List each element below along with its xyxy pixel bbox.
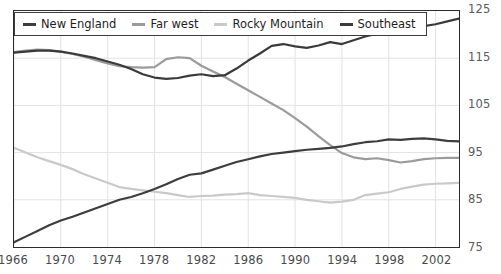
x-tick-label: 1998 (367, 253, 411, 267)
x-tick-label: 1986 (226, 253, 270, 267)
x-tick-label: 1990 (273, 253, 317, 267)
legend-item-rocky-mountain[interactable]: Rocky Mountain (214, 17, 323, 31)
legend-swatch-southeast (340, 23, 353, 26)
y-tick-label: 125 (468, 2, 491, 16)
y-tick-label: 115 (468, 50, 491, 64)
x-tick-label: 1978 (132, 253, 176, 267)
legend-label-rocky-mountain: Rocky Mountain (232, 17, 323, 31)
y-tick-label: 105 (468, 97, 491, 111)
y-tick-label: 95 (468, 145, 483, 159)
line-chart: New England Far west Rocky Mountain Sout… (0, 0, 501, 274)
plot-area (13, 10, 460, 248)
legend-label-new-england: New England (41, 17, 116, 31)
series-line (14, 50, 459, 163)
y-tick-label: 75 (468, 240, 483, 254)
x-tick-label: 1970 (38, 253, 82, 267)
legend-label-southeast: Southeast (358, 17, 416, 31)
y-tick-label: 85 (468, 192, 483, 206)
legend-swatch-rocky-mountain (214, 23, 227, 26)
x-tick-label: 1982 (179, 253, 223, 267)
chart-legend: New England Far west Rocky Mountain Sout… (14, 12, 427, 36)
legend-item-new-england[interactable]: New England (23, 17, 116, 31)
legend-swatch-far-west (132, 23, 145, 26)
series-lines (14, 11, 459, 247)
legend-swatch-new-england (23, 23, 36, 26)
x-tick-label: 1974 (85, 253, 129, 267)
x-tick-label: 1966 (0, 253, 35, 267)
legend-label-far-west: Far west (150, 17, 198, 31)
series-line (14, 148, 459, 203)
legend-item-southeast[interactable]: Southeast (340, 17, 416, 31)
legend-item-far-west[interactable]: Far west (132, 17, 198, 31)
x-tick-label: 2002 (414, 253, 458, 267)
x-tick-label: 1994 (320, 253, 364, 267)
